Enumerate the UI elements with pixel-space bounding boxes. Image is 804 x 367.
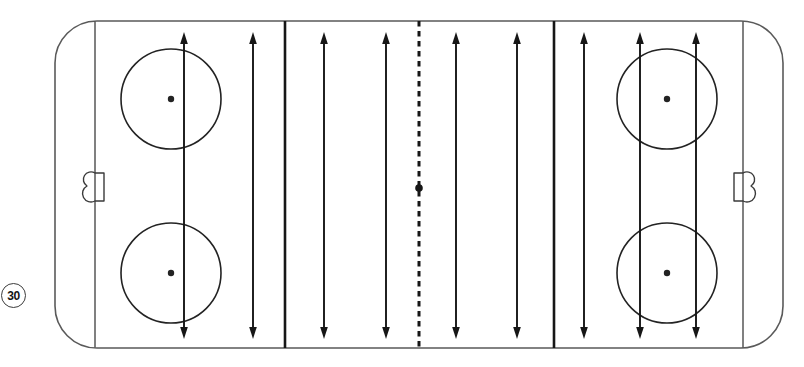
skating-arrow-head-up-1 bbox=[249, 32, 257, 44]
skating-arrow-head-down-2 bbox=[320, 327, 328, 339]
faceoff-dot-0 bbox=[168, 96, 174, 102]
skating-arrow-head-up-8 bbox=[692, 32, 700, 44]
faceoff-dot-1 bbox=[168, 270, 174, 276]
goal-cage-left bbox=[83, 172, 104, 202]
skating-arrow-head-down-5 bbox=[513, 327, 521, 339]
skating-arrow-head-up-3 bbox=[382, 32, 390, 44]
skating-arrow-head-down-4 bbox=[452, 327, 460, 339]
skating-arrow-head-down-8 bbox=[692, 327, 700, 339]
skating-arrow-head-down-3 bbox=[382, 327, 390, 339]
drill-diagram-page: 30 bbox=[0, 0, 804, 367]
skating-arrow-head-down-0 bbox=[180, 327, 188, 339]
skating-arrow-head-down-7 bbox=[636, 327, 644, 339]
skating-arrow-head-up-6 bbox=[580, 32, 588, 44]
faceoff-dot-2 bbox=[664, 96, 670, 102]
skating-arrow-head-down-6 bbox=[580, 327, 588, 339]
skating-arrow-head-up-7 bbox=[636, 32, 644, 44]
faceoff-dot-3 bbox=[664, 270, 670, 276]
center-ice-dot bbox=[415, 184, 423, 192]
skating-arrow-head-up-2 bbox=[320, 32, 328, 44]
skating-arrow-head-up-0 bbox=[180, 32, 188, 44]
skating-arrow-head-up-4 bbox=[452, 32, 460, 44]
skating-arrow-head-down-1 bbox=[249, 327, 257, 339]
goal-cage-right bbox=[734, 172, 756, 202]
hockey-rink-diagram bbox=[0, 0, 804, 367]
skating-arrow-head-up-5 bbox=[513, 32, 521, 44]
